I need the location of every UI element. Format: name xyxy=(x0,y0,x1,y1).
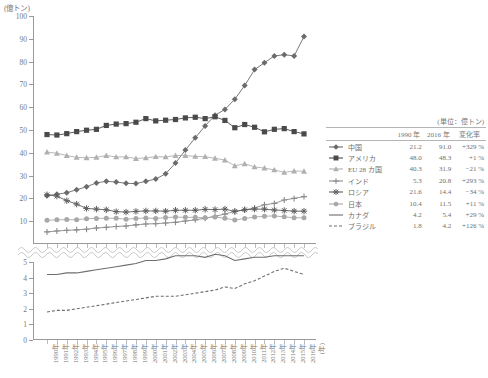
y-tick-label: 50 xyxy=(20,126,28,135)
legend-rate-カナダ: +29 % xyxy=(453,209,486,220)
legend-row[interactable]: ブラジル1.84.2+126 % xyxy=(326,221,486,232)
series-marker-中国 xyxy=(301,34,307,40)
legend-name-EU 28 カ国: EU 28 カ国 xyxy=(346,164,394,175)
x-tick-label: 1991年 xyxy=(60,343,70,363)
x-tick-label: 2005年 xyxy=(198,343,208,363)
series-line-中国 xyxy=(47,37,304,196)
series-marker-中国 xyxy=(133,181,139,187)
series-marker-中国 xyxy=(74,187,80,193)
series-marker-中国 xyxy=(103,178,109,184)
chart-plot-lower: 012345 xyxy=(33,262,316,340)
series-marker-インド xyxy=(173,219,179,225)
legend-1990-日本: 10.4 xyxy=(394,198,424,209)
series-marker-アメリカ xyxy=(123,121,128,126)
x-tick-label: 2000年 xyxy=(149,343,159,363)
series-marker-インド xyxy=(301,194,307,200)
series-marker-アメリカ xyxy=(222,118,227,123)
series-marker-日本 xyxy=(203,215,208,220)
y-tick-label: 30 xyxy=(20,171,28,180)
legend-2016-インド: 20.8 xyxy=(424,175,454,186)
series-marker-中国 xyxy=(123,180,129,186)
x-tick-label: 2009年 xyxy=(238,343,248,363)
legend-header-rate: 変化率 xyxy=(453,128,486,141)
x-tick-label: 2008年 xyxy=(228,343,238,363)
legend-row[interactable]: EU 28 カ国40.331.9−21 % xyxy=(326,164,486,175)
series-marker-ロシア xyxy=(73,201,79,207)
legend-name-日本: 日本 xyxy=(346,198,394,209)
legend-rate-ロシア: −34 % xyxy=(453,187,486,198)
legend-name-カナダ: カナダ xyxy=(346,209,394,220)
series-marker-ロシア xyxy=(212,206,218,212)
x-tick-label: 1995年 xyxy=(99,343,109,363)
series-marker-ロシア xyxy=(83,205,89,211)
legend-row[interactable]: アメリカ48.048.3+1 % xyxy=(326,152,486,163)
legend-row[interactable]: カナダ4.25.4+29 % xyxy=(326,209,486,220)
legend-rate-EU 28 カ国: −21 % xyxy=(453,164,486,175)
series-marker-インド xyxy=(123,223,129,229)
series-line-ブラジル xyxy=(47,268,304,312)
x-tick-label: 1990年 xyxy=(50,343,60,363)
series-marker-アメリカ xyxy=(104,123,109,128)
y-tick-label: 3 xyxy=(23,289,27,298)
series-marker-中国 xyxy=(153,176,159,182)
series-marker-日本 xyxy=(222,216,227,221)
legend-header-name xyxy=(346,128,394,141)
series-marker-インド xyxy=(64,227,70,233)
legend-body: 中国21.291.0+329 %アメリカ48.048.3+1 %EU 28 カ国… xyxy=(326,141,486,233)
y-tick-label: 4 xyxy=(23,273,27,282)
series-marker-日本 xyxy=(124,217,129,222)
series-marker-ロシア xyxy=(133,208,139,214)
y-tick-label: 10 xyxy=(20,217,28,226)
series-marker-アメリカ xyxy=(173,117,178,122)
series-marker-アメリカ xyxy=(143,116,148,121)
legend-table: 1990 年 2016 年 変化率 中国21.291.0+329 %アメリカ48… xyxy=(326,127,486,232)
series-marker-アメリカ xyxy=(94,127,99,132)
legend-rate-中国: +329 % xyxy=(453,141,486,153)
series-marker-ロシア xyxy=(182,207,188,213)
series-marker-日本 xyxy=(143,216,148,221)
series-marker-ロシア xyxy=(103,207,109,213)
series-marker-日本 xyxy=(94,216,99,221)
x-tick-label: 2012年 xyxy=(267,343,277,363)
x-tick-label: 2010年 xyxy=(248,343,258,363)
legend-row[interactable]: インド5.320.8+293 % xyxy=(326,175,486,186)
series-marker-アメリカ xyxy=(212,114,217,119)
legend-row[interactable]: 日本10.411.5+11 % xyxy=(326,198,486,209)
legend-1990-アメリカ: 48.0 xyxy=(394,152,424,163)
series-marker-日本 xyxy=(252,215,257,220)
series-marker-ロシア xyxy=(232,208,238,214)
series-marker-ロシア xyxy=(241,207,247,213)
series-marker-中国 xyxy=(242,83,248,89)
series-marker-アメリカ xyxy=(301,131,306,136)
x-tick-label: 2006年 xyxy=(208,343,218,363)
legend-marker-中国 xyxy=(326,141,346,153)
legend-rate-アメリカ: +1 % xyxy=(453,152,486,163)
legend-row[interactable]: 中国21.291.0+329 % xyxy=(326,141,486,153)
series-marker-日本 xyxy=(272,213,277,218)
legend-name-中国: 中国 xyxy=(346,141,394,153)
series-marker-日本 xyxy=(193,215,198,220)
series-marker-日本 xyxy=(114,216,119,221)
series-marker-日本 xyxy=(173,215,178,220)
series-marker-アメリカ xyxy=(44,132,49,137)
legend-header-marker xyxy=(326,128,346,141)
series-marker-アメリカ xyxy=(64,131,69,136)
chart-page: (億トン) 102030405060708090100 012345 1990年… xyxy=(0,0,488,378)
series-marker-日本 xyxy=(292,215,297,220)
x-tick-label: 2015年 xyxy=(297,343,307,363)
series-marker-アメリカ xyxy=(292,129,297,134)
y-tick-label: 20 xyxy=(20,194,28,203)
series-marker-ロシア xyxy=(44,192,50,198)
legend-1990-中国: 21.2 xyxy=(394,141,424,153)
series-marker-日本 xyxy=(104,216,109,221)
legend-row[interactable]: ロシア21.614.4−34 % xyxy=(326,187,486,198)
series-marker-中国 xyxy=(271,53,277,59)
series-marker-中国 xyxy=(93,180,99,186)
series-marker-EU 28 カ国 xyxy=(44,149,50,154)
legend-2016-ロシア: 14.4 xyxy=(424,187,454,198)
legend-table-container: (単位：億トン) 1990 年 2016 年 変化率 中国21.291.0+32… xyxy=(326,116,486,232)
series-marker-アメリカ xyxy=(252,125,257,130)
legend-rate-インド: +293 % xyxy=(453,175,486,186)
x-tick-label: 1993年 xyxy=(80,343,90,363)
legend-marker-日本 xyxy=(326,198,346,209)
